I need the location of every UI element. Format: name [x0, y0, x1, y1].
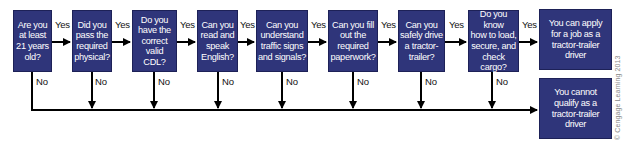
question-box-paperwork: Can you fill out the required paperwork?	[328, 10, 378, 72]
question-box-age: Are you at least 21 years old?	[13, 10, 52, 72]
question-box-drive: Can you safely drive a tractor- trailer?	[398, 10, 445, 72]
copyright-notice: © Cengage Learning 2013	[614, 55, 621, 140]
question-box-cargo: Do you know how to load, secure, and che…	[468, 10, 519, 72]
yes-label-6: Yes	[381, 19, 396, 30]
no-label-2: No	[95, 76, 107, 87]
no-label-6: No	[357, 76, 369, 87]
question-box-traffic-signs: Can you understand traffic signs and sig…	[256, 10, 308, 72]
outcome-box-can-apply: You can apply for a job as a tractor-tra…	[539, 9, 612, 70]
yes-label-5: Yes	[311, 19, 326, 30]
yes-label-8: Yes	[522, 19, 537, 30]
yes-label-7: Yes	[449, 19, 464, 30]
no-label-1: No	[36, 76, 48, 87]
question-box-physical: Did you pass the required physical?	[72, 10, 112, 72]
yes-label-1: Yes	[55, 19, 70, 30]
no-label-8: No	[496, 76, 508, 87]
no-label-5: No	[286, 76, 298, 87]
yes-label-4: Yes	[240, 19, 255, 30]
question-box-cdl: Do you have the correct valid CDL?	[132, 10, 177, 72]
flowchart: Are you at least 21 years old? Did you p…	[0, 0, 635, 152]
outcome-box-cannot-qualify: You cannot qualify as a tractor-trailer …	[539, 78, 612, 139]
question-box-english: Can you read and speak English?	[197, 10, 238, 72]
yes-label-2: Yes	[115, 19, 130, 30]
no-label-7: No	[425, 76, 437, 87]
no-label-3: No	[158, 76, 170, 87]
yes-label-3: Yes	[180, 19, 195, 30]
no-label-4: No	[222, 76, 234, 87]
